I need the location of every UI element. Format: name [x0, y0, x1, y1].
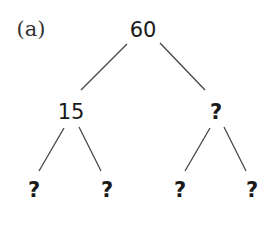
leaf-node: ? — [28, 178, 40, 202]
factor-tree-diagram: (a) 60 15 ? ? ? ? ? — [0, 0, 267, 240]
root-node: 60 — [130, 18, 157, 42]
leaf-node: ? — [174, 178, 186, 202]
part-label: (a) — [17, 17, 46, 41]
leaf-node: ? — [101, 178, 113, 202]
leaf-node: ? — [246, 178, 258, 202]
right-node: ? — [210, 100, 222, 124]
left-node: 15 — [58, 100, 85, 124]
